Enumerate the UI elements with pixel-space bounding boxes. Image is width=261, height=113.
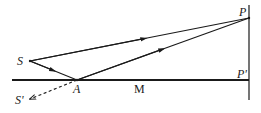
ray-diagram: S S' A P P' M <box>0 0 261 113</box>
label-p-prime: P' <box>236 67 247 81</box>
virtual-ray-a-to-s-prime <box>30 80 77 99</box>
label-a: A <box>72 82 81 96</box>
ray-s-to-a <box>30 61 77 80</box>
label-s-prime: S' <box>15 93 24 107</box>
ray-a-to-p <box>77 18 249 80</box>
label-p: P <box>238 5 247 19</box>
label-s: S <box>17 54 23 68</box>
ray-s-to-p <box>30 18 249 61</box>
point-p-dot <box>248 17 250 19</box>
label-mirror-m: M <box>134 82 145 96</box>
point-a-dot <box>76 79 79 82</box>
point-s-dot <box>29 60 31 62</box>
